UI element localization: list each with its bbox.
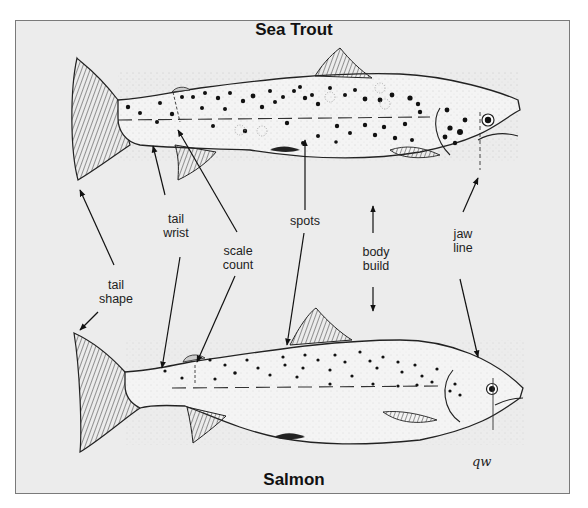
salmon-fish <box>74 308 525 452</box>
label-tail-wrist: tail wrist <box>163 212 189 240</box>
label-spots-line1: spots <box>290 214 320 228</box>
label-tail-shape-line2: shape <box>99 292 133 306</box>
label-body-build-line1: body <box>362 245 389 259</box>
artist-signature: qw <box>472 454 491 469</box>
label-jaw-line: jaw line <box>453 227 472 255</box>
fish-illustrations <box>0 0 588 508</box>
label-tail-shape: tail shape <box>99 278 133 306</box>
annotation-arrows <box>80 130 478 368</box>
label-tail-shape-line1: tail <box>99 278 133 292</box>
label-scale-count-line2: count <box>223 258 254 272</box>
label-tail-wrist-line2: wrist <box>163 226 189 240</box>
label-tail-wrist-line1: tail <box>163 212 189 226</box>
sea-trout-fish <box>72 48 520 180</box>
label-scale-count: scale count <box>223 244 254 272</box>
label-scale-count-line1: scale <box>223 244 254 258</box>
label-body-build: body build <box>362 245 389 273</box>
label-body-build-line2: build <box>362 259 389 273</box>
label-jaw-line-line2: line <box>453 241 472 255</box>
label-spots: spots <box>290 214 320 228</box>
label-jaw-line-line1: jaw <box>453 227 472 241</box>
